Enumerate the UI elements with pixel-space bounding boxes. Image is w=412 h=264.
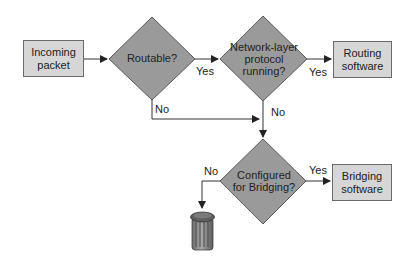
incoming-label-line1: Incoming <box>31 46 76 59</box>
edge-label-routable-yes: Yes <box>196 65 214 77</box>
routing-label-line1: Routing <box>342 47 384 60</box>
configured-label-line1: Configured <box>233 169 295 181</box>
trash-can-icon <box>191 212 215 250</box>
flowchart: Incoming packet Routing software Bridgin… <box>0 0 412 264</box>
edge-label-configured-yes: Yes <box>309 164 327 176</box>
network-label-line2: protocol <box>230 53 298 65</box>
edge-label-configured-no: No <box>204 165 218 177</box>
incoming-label-line2: packet <box>31 59 76 72</box>
process-incoming-packet: Incoming packet <box>23 40 84 77</box>
edge-label-routable-no: No <box>155 103 169 115</box>
process-bridging-software: Bridging software <box>332 164 392 201</box>
process-routing-software: Routing software <box>333 41 392 78</box>
decision-configured-label: Configured for Bridging? <box>224 168 304 194</box>
network-label-line3: running? <box>230 65 298 77</box>
decision-routable-label: Routable? <box>118 50 186 66</box>
edge-label-network-yes: Yes <box>309 66 327 78</box>
routing-label-line2: software <box>342 60 384 73</box>
bridging-label-line2: software <box>341 183 383 196</box>
decision-network-layer-label: Network-layer protocol running? <box>222 40 306 78</box>
edge-label-network-no: No <box>271 106 285 118</box>
configured-label-line2: for Bridging? <box>233 181 295 193</box>
bridging-label-line1: Bridging <box>341 170 383 183</box>
arrow-configured-no <box>202 181 220 208</box>
network-label-line1: Network-layer <box>230 41 298 53</box>
